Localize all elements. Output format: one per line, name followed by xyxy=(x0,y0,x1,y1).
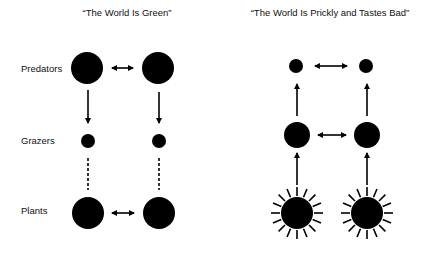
prickly-plant-node-1 xyxy=(271,187,323,239)
right-panel xyxy=(271,59,393,239)
predator-node-1 xyxy=(71,52,103,84)
grazer-node-2 xyxy=(152,134,166,148)
plant-node-2 xyxy=(143,197,175,229)
plant-node-1 xyxy=(72,197,104,229)
prickly-plant-node-2 xyxy=(341,187,393,239)
grazer-node-4 xyxy=(354,122,380,148)
predator-node-2 xyxy=(142,52,174,84)
food-web-diagram xyxy=(0,0,422,258)
predator-node-3 xyxy=(289,59,303,73)
grazer-node-1 xyxy=(81,134,95,148)
grazer-node-3 xyxy=(284,122,310,148)
predator-node-4 xyxy=(359,59,373,73)
left-panel xyxy=(71,52,175,229)
